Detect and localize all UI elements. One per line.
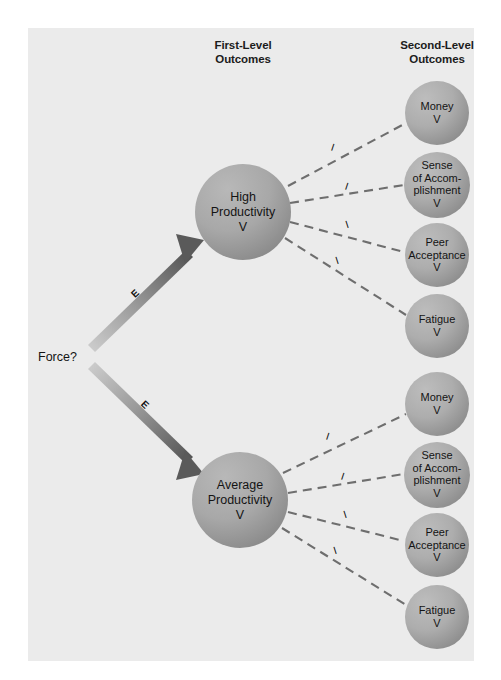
node-high-productivity[interactable] (195, 164, 291, 260)
link-avg-fatigue (282, 528, 406, 605)
arrow-expectancy-average (88, 362, 204, 480)
header-second-level-line2: Outcomes (378, 52, 496, 66)
node-money-bottom[interactable] (405, 372, 469, 436)
link-avg-money (283, 414, 406, 473)
node-average-productivity[interactable] (192, 452, 288, 548)
node-peer-acceptance-bottom[interactable] (405, 513, 469, 577)
header-first-level-line2: Outcomes (183, 52, 303, 66)
header-second-level: Second-Level Outcomes (378, 38, 496, 66)
source-label-force: Force? (38, 350, 118, 364)
node-accomplishment-bottom[interactable] (404, 442, 470, 508)
node-money-top[interactable] (405, 81, 469, 145)
node-fatigue-top[interactable] (405, 294, 469, 358)
header-second-level-line1: Second-Level (378, 38, 496, 52)
link-high-money (288, 122, 408, 186)
node-accomplishment-top[interactable] (404, 152, 470, 218)
arrow-expectancy-high (88, 234, 204, 352)
header-first-level-line1: First-Level (183, 38, 303, 52)
link-high-fatigue (285, 238, 406, 315)
diagram-graphics (0, 0, 501, 680)
node-peer-acceptance-top[interactable] (405, 223, 469, 287)
node-fatigue-bottom[interactable] (405, 585, 469, 649)
diagram-canvas: First-Level Outcomes Second-Level Outcom… (0, 0, 501, 680)
header-first-level: First-Level Outcomes (183, 38, 303, 66)
